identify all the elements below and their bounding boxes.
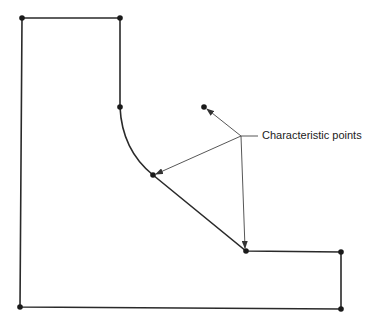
characteristic-points-label: Characteristic points (262, 129, 362, 141)
diagram-canvas: Characteristic points (0, 0, 377, 324)
leader-lines (156, 109, 258, 248)
profile-drawing (0, 0, 377, 324)
